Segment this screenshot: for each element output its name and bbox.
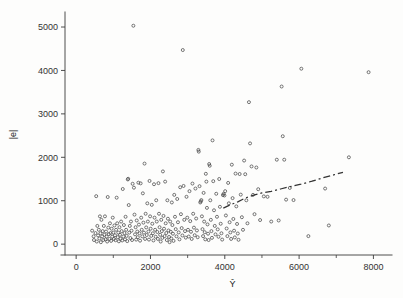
scatter-point [266,195,269,198]
scatter-point [98,215,101,218]
scatter-point [195,217,198,220]
scatter-point [149,215,152,218]
scatter-point [105,230,108,233]
scatter-point [280,85,283,88]
scatter-point [101,230,104,233]
x-tick-label-0: 0 [74,262,79,272]
scatter-point [137,223,140,226]
scatter-point [153,183,156,186]
scatter-point [210,236,213,239]
scatter-point [144,237,147,240]
scatter-point [240,216,243,219]
scatter-point [202,235,205,238]
scatter-point [206,223,209,226]
scatter-point [236,232,239,235]
scatter-point [239,193,242,196]
scatter-point [262,195,265,198]
scatter-point [235,205,238,208]
y-tick-label-3000: 3000 [38,109,58,119]
scatter-point [230,237,233,240]
scatter-point [255,166,258,169]
scatter-point [160,218,163,221]
scatter-point [229,231,232,234]
scatter-point [136,236,139,239]
scatter-point [178,238,181,241]
scatter-point [233,229,236,232]
scatter-point [214,233,217,236]
scatter-point [245,199,248,202]
scatter-point [184,230,187,233]
scatter-point [218,178,221,181]
scatter-point [182,184,185,187]
scatter-point [149,227,152,230]
x-tick-label-8000: 8000 [363,262,383,272]
scatter-point [243,159,246,162]
scatter-point [204,172,207,175]
scatter-point [250,165,253,168]
scatter-point [285,198,288,201]
scatter-point [198,185,201,188]
scatter-point [347,156,350,159]
scatter-point [194,187,197,190]
scatter-point [119,233,122,236]
scatter-point [166,217,169,220]
scatter-point [126,240,129,243]
scatter-plot-figure: 01000200030004000500002000400060008000Ŷ|… [0,0,403,298]
scatter-point [100,218,103,221]
scatter-point [121,188,124,191]
scatter-point [181,49,184,52]
scatter-point [210,230,213,233]
scatter-point [207,232,210,235]
y-tick-label-0: 0 [53,239,58,249]
scatter-point [173,215,176,218]
scatter-point [196,236,199,239]
scatter-point [108,222,111,225]
scatter-point [232,217,235,220]
scatter-point [218,205,221,208]
scatter-point [219,222,222,225]
scatter-point [129,237,132,240]
scatter-point [131,182,134,185]
scatter-point [249,142,252,145]
scatter-point [138,232,141,235]
scatter-point [165,232,168,235]
scatter-point [204,238,207,241]
scatter-point [190,237,193,240]
scatter-point [227,202,230,205]
scatter-point [139,239,142,242]
scatter-point [132,186,135,189]
scatter-point [227,181,230,184]
scatter-point [205,206,208,209]
scatter-point [244,173,247,176]
scatter-point [181,234,184,237]
scatter-point [166,199,169,202]
scatter-point [147,230,150,233]
scatter-point [238,173,241,176]
scatter-point [183,218,186,221]
scatter-point [203,220,206,223]
scatter-point [159,233,162,236]
scatter-point [185,195,188,198]
scatter-point [234,172,237,175]
scatter-point [207,239,210,242]
scatter-point [161,170,164,173]
scatter-point [111,216,114,219]
scatter-point [179,213,182,216]
scatter-point [220,232,223,235]
scatter-point [162,214,165,217]
scatter-point [131,239,134,242]
scatter-point [120,230,123,233]
x-tick-label-6000: 6000 [289,262,309,272]
scatter-point [134,226,137,229]
scatter-point [224,214,227,217]
scatter-point [143,162,146,165]
scatter-point [156,230,159,233]
scatter-point [108,237,111,240]
scatter-point [300,67,303,70]
scatter-point [140,228,143,231]
scatter-point [142,221,145,224]
scatter-point [164,222,167,225]
scatter-point [193,234,196,237]
scatter-point [203,231,206,234]
scatter-point [228,221,231,224]
